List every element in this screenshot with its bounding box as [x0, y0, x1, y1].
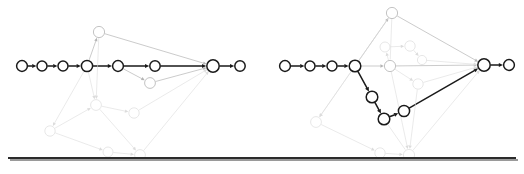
edge-arrowhead: [95, 96, 98, 99]
graph-node[interactable]: [405, 41, 415, 51]
graph-node[interactable]: [384, 60, 395, 71]
graph-edge: [105, 34, 203, 63]
graph-node[interactable]: [311, 117, 322, 128]
graph-edge: [395, 69, 410, 78]
edge-layer: [28, 34, 234, 156]
edge-arrowhead: [344, 64, 348, 68]
graph-edge: [89, 41, 96, 60]
edge-arrowhead: [405, 145, 408, 149]
horizontal-rule: [0, 154, 524, 174]
graph-node[interactable]: [280, 61, 291, 72]
graph-node[interactable]: [58, 61, 68, 71]
graph-node[interactable]: [417, 55, 426, 64]
graph-node[interactable]: [478, 59, 490, 71]
graph-edge: [414, 51, 416, 54]
graph-node[interactable]: [378, 113, 390, 125]
graph-node[interactable]: [45, 126, 55, 136]
edge-arrowhead: [230, 64, 234, 68]
graph-node[interactable]: [349, 60, 361, 72]
edge-arrowhead: [322, 64, 326, 68]
left-graph-panel: [0, 0, 262, 174]
graph-edge: [96, 38, 98, 95]
graph-node[interactable]: [235, 61, 245, 71]
graph-node[interactable]: [305, 61, 315, 71]
graph-node[interactable]: [113, 61, 124, 72]
graph-node[interactable]: [504, 60, 515, 71]
graph-edge: [396, 65, 473, 66]
graph-edge: [388, 124, 405, 149]
graph-edge: [390, 19, 391, 59]
edge-arrowhead: [409, 78, 413, 81]
edge-layer: [291, 16, 503, 156]
edge-arrowhead: [125, 109, 129, 112]
graph-edge: [322, 125, 372, 149]
graph-edge: [427, 60, 473, 64]
graph-node[interactable]: [413, 79, 423, 89]
graph-edge: [410, 90, 417, 145]
edge-arrowhead: [94, 38, 97, 42]
edge-arrowhead: [380, 64, 383, 67]
graph-node[interactable]: [327, 61, 337, 71]
graph-node[interactable]: [386, 7, 397, 18]
graph-node[interactable]: [93, 26, 104, 37]
right-graph-canvas: [262, 0, 524, 174]
graph-node[interactable]: [150, 61, 160, 71]
left-graph-canvas: [0, 0, 262, 174]
edge-arrowhead: [32, 64, 36, 68]
graph-node[interactable]: [129, 108, 139, 118]
separator-container: [0, 154, 524, 174]
graph-node[interactable]: [207, 60, 219, 72]
graph-node[interactable]: [81, 60, 92, 71]
graph-node[interactable]: [366, 91, 378, 103]
graph-edge: [55, 72, 84, 123]
figure-stage: [0, 0, 524, 174]
graph-edge: [100, 110, 134, 148]
graph-edge: [387, 56, 388, 60]
graph-edge: [123, 69, 141, 79]
edge-arrowhead: [499, 63, 503, 67]
edge-arrowhead: [386, 52, 389, 56]
graph-node[interactable]: [380, 42, 390, 52]
right-graph-panel: [262, 0, 524, 174]
graph-edge: [358, 72, 367, 88]
graph-edge: [88, 72, 93, 95]
edge-arrowhead: [203, 61, 207, 64]
edge-arrowhead: [319, 113, 322, 117]
edge-arrowhead: [53, 64, 57, 68]
graph-node[interactable]: [145, 78, 156, 89]
edge-arrowhead: [409, 145, 412, 149]
graph-node[interactable]: [91, 100, 102, 111]
edge-arrowhead: [108, 64, 112, 68]
graph-edge: [55, 110, 87, 128]
graph-edge: [390, 115, 394, 117]
graph-node[interactable]: [37, 61, 47, 71]
graph-node[interactable]: [398, 105, 409, 116]
node-layer: [17, 26, 246, 160]
graph-edge: [375, 103, 379, 110]
graph-edge: [156, 69, 203, 82]
edge-arrowhead: [77, 64, 81, 68]
edge-arrowhead: [401, 45, 404, 48]
graph-node[interactable]: [17, 61, 28, 72]
edge-arrowhead: [300, 64, 304, 68]
graph-edge: [102, 106, 125, 111]
graph-edge: [56, 133, 100, 149]
edge-arrowhead: [145, 64, 149, 68]
graph-edge: [398, 16, 475, 60]
